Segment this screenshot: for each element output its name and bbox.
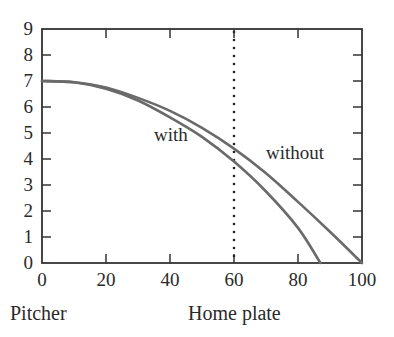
dot bbox=[233, 47, 236, 50]
dot bbox=[233, 71, 236, 74]
dot bbox=[233, 119, 236, 122]
curve-annotations: withwithout bbox=[154, 124, 325, 163]
dot bbox=[233, 223, 236, 226]
dot bbox=[233, 63, 236, 66]
dot bbox=[233, 87, 236, 90]
y-tick-label: 9 bbox=[24, 18, 34, 39]
x-tick-label: 100 bbox=[348, 269, 377, 290]
dot bbox=[233, 255, 236, 258]
dot bbox=[233, 199, 236, 202]
x-tick-label: 20 bbox=[97, 269, 116, 290]
y-tick-label: 6 bbox=[24, 96, 34, 117]
dot bbox=[233, 215, 236, 218]
dot bbox=[233, 135, 236, 138]
curve-with bbox=[42, 81, 320, 263]
dot bbox=[233, 175, 236, 178]
dot bbox=[233, 151, 236, 154]
dot bbox=[233, 95, 236, 98]
y-tick-label: 2 bbox=[24, 200, 34, 221]
dot bbox=[233, 127, 236, 130]
trajectory-curves bbox=[42, 81, 362, 263]
trajectory-chart: 0123456789 020406080100 withwithout bbox=[0, 0, 394, 337]
x-tick-label: 80 bbox=[289, 269, 308, 290]
home-plate-dotted-line bbox=[233, 31, 236, 258]
dot bbox=[233, 207, 236, 210]
dot bbox=[233, 183, 236, 186]
x-tick-label: 0 bbox=[37, 269, 47, 290]
dot bbox=[233, 247, 236, 250]
curve-without bbox=[42, 81, 362, 263]
label-with: with bbox=[154, 124, 188, 145]
dot bbox=[233, 39, 236, 42]
dot bbox=[233, 239, 236, 242]
dot bbox=[233, 167, 236, 170]
home-plate-label: Home plate bbox=[188, 302, 281, 325]
dot bbox=[233, 55, 236, 58]
x-axis: 020406080100 bbox=[37, 29, 376, 290]
y-tick-label: 3 bbox=[24, 174, 34, 195]
y-tick-label: 0 bbox=[24, 252, 34, 273]
y-tick-label: 4 bbox=[24, 148, 34, 169]
y-tick-label: 1 bbox=[24, 226, 34, 247]
dot bbox=[233, 111, 236, 114]
dot bbox=[233, 79, 236, 82]
x-tick-label: 40 bbox=[161, 269, 180, 290]
x-tick-label: 60 bbox=[225, 269, 244, 290]
dot bbox=[233, 231, 236, 234]
pitcher-label: Pitcher bbox=[10, 302, 67, 325]
dot bbox=[233, 143, 236, 146]
y-tick-label: 5 bbox=[24, 122, 34, 143]
y-tick-label: 8 bbox=[24, 44, 34, 65]
label-without: without bbox=[266, 142, 325, 163]
dot bbox=[233, 103, 236, 106]
dot bbox=[233, 191, 236, 194]
dot bbox=[233, 31, 236, 34]
y-tick-label: 7 bbox=[24, 70, 34, 91]
